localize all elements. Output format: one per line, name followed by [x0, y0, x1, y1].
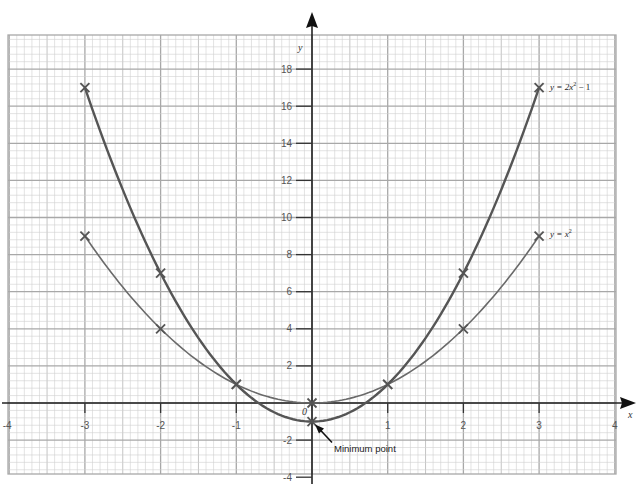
x-tick-label: 1	[385, 420, 391, 431]
chart: -4-3-2-11234-4-224681012141618xy0 y = 2x…	[0, 0, 644, 484]
y-axis-arrow-icon	[306, 12, 318, 28]
y-tick-label: 2	[286, 360, 292, 371]
y-tick-label: 16	[281, 101, 293, 112]
x-tick-label: -1	[232, 420, 241, 431]
x-tick-label: 2	[461, 420, 467, 431]
annotation-minimum-point: Minimum point	[334, 443, 396, 454]
y-tick-label: 10	[281, 212, 293, 223]
y-tick-label: 4	[286, 323, 292, 334]
x-tick-label: -2	[156, 420, 165, 431]
x-tick-label: -4	[3, 420, 12, 431]
y-tick-label: 14	[281, 138, 293, 149]
y-tick-label: 18	[281, 64, 293, 75]
x-tick-label: -3	[80, 420, 89, 431]
y-tick-label: 12	[281, 175, 293, 186]
series-label: y = 2x2 − 1	[549, 81, 590, 92]
axes: -4-3-2-11234-4-224681012141618xy0	[2, 12, 636, 484]
labels: y = 2x2 − 1y = x2Minimum point	[315, 81, 590, 454]
x-axis-label: x	[627, 409, 633, 420]
x-axis-arrow-icon	[620, 397, 636, 409]
y-axis-label: y	[297, 42, 303, 53]
series-label: y = x2	[549, 228, 572, 239]
y-tick-label: -2	[283, 435, 292, 446]
x-tick-label: 3	[536, 420, 542, 431]
y-tick-label: 6	[286, 286, 292, 297]
y-tick-label: -4	[283, 472, 292, 483]
origin-label: 0	[302, 406, 307, 417]
y-tick-label: 8	[286, 249, 292, 260]
x-tick-label: 4	[612, 420, 618, 431]
